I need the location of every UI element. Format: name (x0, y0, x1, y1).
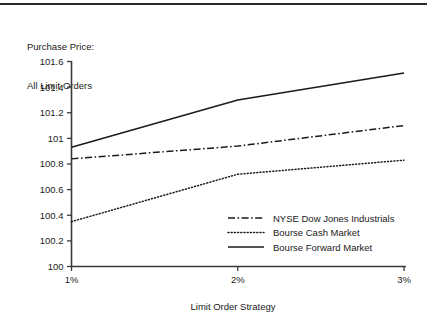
y-tick-label: 100.6 (40, 184, 64, 195)
x-axis-ticks: 1%2%3% (65, 267, 412, 285)
series-lines (72, 73, 405, 222)
legend-label-0: NYSE Dow Jones Industrials (273, 213, 395, 224)
chart-legend: NYSE Dow Jones IndustrialsBourse Cash Ma… (228, 213, 395, 253)
y-tick-label: 101.6 (40, 56, 64, 67)
chart-figure: Purchase Price: All Limit Orders 100100.… (0, 0, 427, 323)
y-axis-ticks: 100100.2100.4100.6100.8101101.2101.4101.… (40, 56, 72, 272)
y-tick-label: 100.8 (40, 158, 64, 169)
x-tick-label: 2% (231, 274, 245, 285)
x-tick-label: 3% (397, 274, 411, 285)
y-tick-label: 100.2 (40, 235, 64, 246)
y-tick-label: 100.4 (40, 210, 64, 221)
series-line-0 (72, 126, 405, 159)
y-tick-label: 101 (48, 133, 64, 144)
x-axis-title: Limit Order Strategy (191, 301, 276, 312)
y-tick-label: 100 (48, 261, 64, 272)
legend-label-1: Bourse Cash Market (273, 227, 360, 238)
legend-label-2: Bourse Forward Market (273, 242, 373, 253)
y-tick-label: 101.4 (40, 82, 64, 93)
plot-area: 100100.2100.4100.6100.8101101.2101.4101.… (0, 0, 427, 323)
y-tick-label: 101.2 (40, 107, 64, 118)
x-tick-label: 1% (65, 274, 79, 285)
series-line-2 (72, 73, 405, 147)
